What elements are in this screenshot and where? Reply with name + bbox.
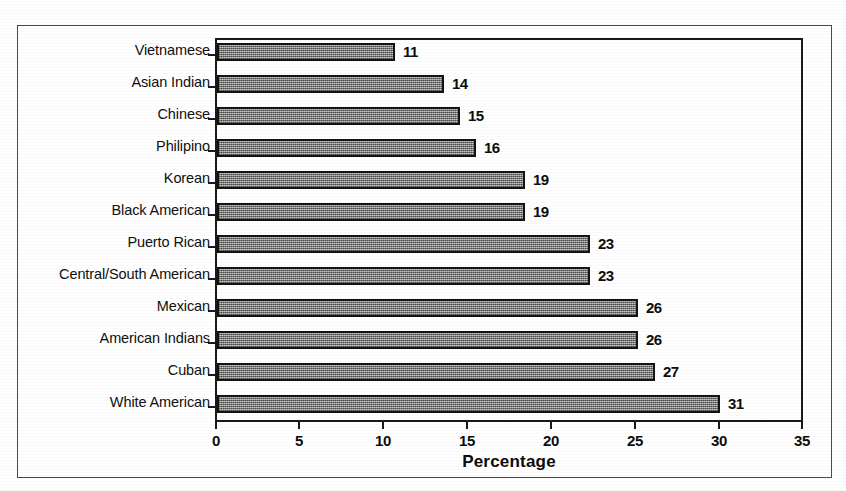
- bar[interactable]: [217, 299, 638, 317]
- bar-value-label: 11: [403, 43, 418, 61]
- category-label: American Indians: [100, 330, 210, 346]
- x-tick-label: 25: [615, 432, 655, 449]
- bar[interactable]: [217, 331, 638, 349]
- bar[interactable]: [217, 75, 444, 93]
- bar-value-label: 23: [598, 267, 614, 285]
- x-tick-label: 35: [782, 432, 822, 449]
- category-label: Chinese: [158, 106, 211, 122]
- x-tick-label: 10: [363, 432, 403, 449]
- bar[interactable]: [217, 139, 476, 157]
- category-label: Puerto Rican: [127, 234, 210, 250]
- bar-value-label: 27: [663, 363, 679, 381]
- x-tick-label: 20: [531, 432, 571, 449]
- bar-value-label: 23: [598, 235, 614, 253]
- bar-value-label: 16: [484, 139, 500, 157]
- x-tick-label: 15: [447, 432, 487, 449]
- bar[interactable]: [217, 235, 590, 253]
- x-tick-label: 5: [279, 432, 319, 449]
- category-label: Central/South American: [59, 266, 210, 282]
- bar[interactable]: [217, 171, 525, 189]
- bar-chart-figure: Vietnamese Asian Indian Chinese Philipin…: [0, 0, 846, 491]
- x-tick-label: 0: [196, 432, 236, 449]
- bar-value-label: 19: [533, 203, 549, 221]
- category-label: Black American: [111, 202, 210, 218]
- bar-value-label: 31: [728, 395, 744, 413]
- category-axis-labels: Vietnamese Asian Indian Chinese Philipin…: [20, 38, 210, 422]
- bars-layer: 11 14 15 16 19 19 23 23: [217, 40, 801, 420]
- bar[interactable]: [217, 43, 395, 61]
- category-label: Philipino: [156, 138, 210, 154]
- category-label: Mexican: [157, 298, 210, 314]
- category-label: White American: [110, 394, 210, 410]
- bar[interactable]: [217, 267, 590, 285]
- bar-value-label: 19: [533, 171, 549, 189]
- x-tick-label: 30: [699, 432, 739, 449]
- category-label: Korean: [164, 170, 210, 186]
- bar-value-label: 26: [646, 331, 662, 349]
- bar[interactable]: [217, 107, 460, 125]
- bar[interactable]: [217, 203, 525, 221]
- x-axis-title: Percentage: [215, 452, 803, 472]
- category-label: Vietnamese: [135, 42, 210, 58]
- bar-value-label: 15: [468, 107, 484, 125]
- bar-value-label: 26: [646, 299, 662, 317]
- bar-value-label: 14: [452, 75, 468, 93]
- category-label: Cuban: [168, 362, 210, 378]
- bar[interactable]: [217, 395, 720, 413]
- bar[interactable]: [217, 363, 655, 381]
- category-label: Asian Indian: [131, 74, 210, 90]
